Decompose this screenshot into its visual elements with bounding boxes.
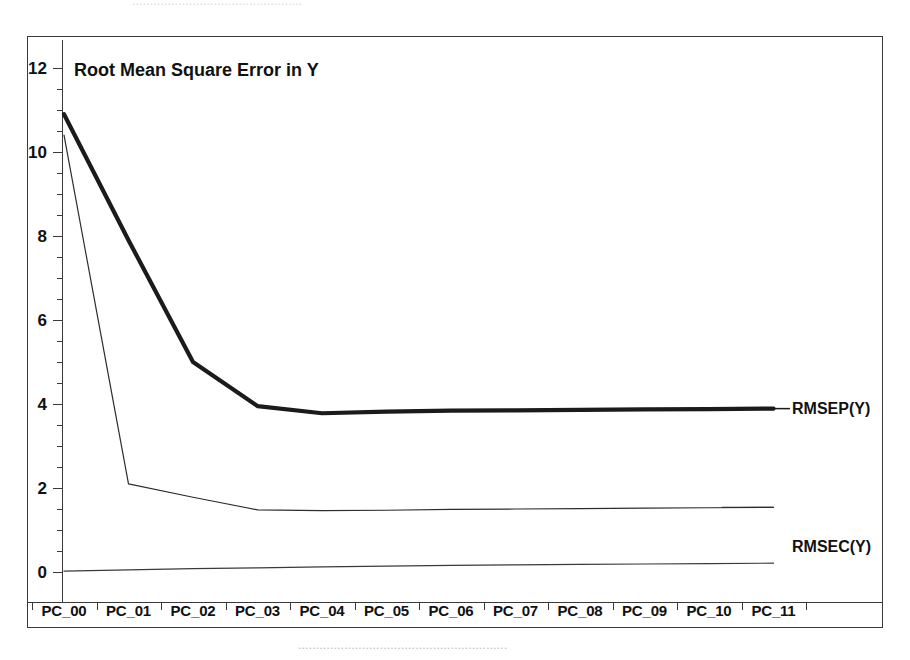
x-tick-label-pc_11: PC_11 [751, 602, 795, 619]
y-tick-label-12: 12 [28, 60, 47, 77]
x-tick-label-pc_00: PC_00 [42, 602, 87, 619]
plot-region: Root Mean Square Error in Y 024681012 RM… [62, 40, 883, 602]
series-label-rmsec: RMSEC(Y) [792, 538, 871, 556]
x-tick-label-pc_06: PC_06 [429, 602, 474, 619]
x-tick-label-pc_02: PC_02 [171, 602, 216, 619]
frame-top-border [27, 36, 883, 37]
y-tick-label-10: 10 [28, 144, 47, 161]
x-tick-label-pc_08: PC_08 [558, 602, 603, 619]
y-tick-label-0: 0 [38, 564, 47, 581]
frame-left-border [27, 36, 28, 628]
y-tick-label-2: 2 [38, 480, 47, 497]
x-tick-label-pc_10: PC_10 [687, 602, 732, 619]
series-label-rmsep: RMSEP(Y) [792, 400, 870, 418]
y-tick-label-6: 6 [38, 312, 47, 329]
y-tick-label-8: 8 [38, 228, 47, 245]
scan-artifact-top: ........................................… [132, 0, 302, 9]
x-tick-label-pc_07: PC_07 [493, 602, 538, 619]
x-tick-label-pc_09: PC_09 [622, 602, 667, 619]
x-axis-label-band: PC_00PC_01PC_02PC_03PC_04PC_05PC_06PC_07… [27, 598, 883, 628]
series-line-baseline [64, 563, 774, 571]
series-line-rmsepy [64, 114, 774, 413]
y-tick-label-4: 4 [38, 396, 47, 413]
x-tick-label-pc_04: PC_04 [300, 602, 345, 619]
series-plot [62, 40, 883, 602]
x-tick-label-pc_05: PC_05 [364, 602, 409, 619]
x-tick-label-pc_01: PC_01 [106, 602, 151, 619]
scan-artifact-bottom: ........................................… [298, 637, 507, 653]
x-tick-label-pc_03: PC_03 [235, 602, 280, 619]
